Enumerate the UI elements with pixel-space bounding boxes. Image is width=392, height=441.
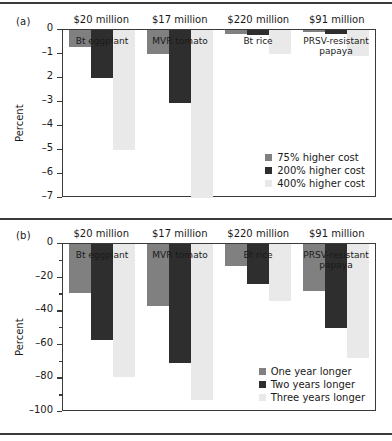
figure-container: (a) Percent $20 million$17 million$220 m… [0,0,392,441]
y-tick-label-2: –20 [35,270,53,281]
y-tick-label-4: –4 [42,118,53,129]
bar-0-2 [113,30,135,150]
legend-label-0: 75% higher cost [277,151,358,164]
panel-a-legend: 75% higher cost200% higher cost400% high… [265,151,365,190]
y-tick-label-1: –1 [42,46,53,57]
legend-item-2: Three years longer [259,391,365,404]
group-header-0: $20 million [62,228,141,242]
group-header-3: $91 million [298,14,377,28]
bar-group-1: MVR tomato [141,30,219,196]
bar-3-1 [325,30,347,34]
bar-0-2 [113,244,135,377]
legend-swatch-1 [259,381,266,388]
y-tick-label-8: –80 [35,370,53,381]
group-label-0: Bt eggplant [63,36,141,46]
bottom-rule [0,433,392,435]
bar-group-0: Bt eggplant [63,30,141,196]
group-label-2: Bt rice [219,36,297,46]
legend-item-1: Two years longer [259,378,365,391]
top-rule [0,2,392,4]
legend-label-1: Two years longer [271,378,355,391]
legend-item-0: One year longer [259,365,365,378]
group-header-0: $20 million [62,14,141,28]
group-label-0: Bt eggplant [63,250,141,260]
legend-swatch-2 [265,180,272,187]
group-header-1: $17 million [141,14,220,28]
y-tick-label-10: –100 [29,404,53,415]
group-header-3: $91 million [298,228,377,242]
y-tick-label-0: 0 [47,236,53,247]
group-header-2: $220 million [219,14,298,28]
panel-b: (b) Percent $20 million$17 million$220 m… [0,228,392,428]
legend-item-2: 400% higher cost [265,177,365,190]
bar-3-0 [303,30,325,32]
panel-a-plot-area: Bt eggplantMVR tomatoBt ricePRSV-resista… [62,29,376,197]
legend-swatch-1 [265,167,272,174]
group-header-1: $17 million [141,228,220,242]
panel-a: (a) Percent $20 million$17 million$220 m… [0,14,392,214]
middle-rule [0,218,392,220]
y-tick-label-2: 2 [47,70,53,81]
legend-item-1: 200% higher cost [265,164,365,177]
legend-swatch-0 [259,368,266,375]
panel-b-group-headers: $20 million$17 million$220 million$91 mi… [62,228,376,242]
y-tick-label-6: –6 [42,166,53,177]
legend-label-2: Three years longer [271,391,365,404]
group-label-1: MVR tomato [141,250,219,260]
panel-b-y-ticks: 0–20–40–60–80–100 [0,228,62,428]
bar-1-1 [169,244,191,363]
y-tick-label-7: –7 [42,190,53,201]
bar-group-1: MVR tomato [141,244,219,410]
y-tick-label-4: –40 [35,303,53,314]
panel-a-group-headers: $20 million$17 million$220 million$91 mi… [62,14,376,28]
panel-b-legend: One year longerTwo years longerThree yea… [259,365,365,404]
y-tick-mark-7 [57,197,62,198]
group-label-3: PRSV-resistant papaya [297,250,375,270]
legend-swatch-2 [259,394,266,401]
bar-group-0: Bt eggplant [63,244,141,410]
bar-2-0 [225,30,247,34]
legend-label-2: 400% higher cost [277,177,365,190]
y-tick-label-0: 0 [47,22,53,33]
group-header-2: $220 million [219,228,298,242]
panel-a-y-ticks: 0–12–3–4–5–6–7 [0,14,62,214]
legend-item-0: 75% higher cost [265,151,365,164]
y-tick-label-6: –60 [35,337,53,348]
group-label-2: Bt rice [219,250,297,260]
group-label-3: PRSV-resistant papaya [297,36,375,56]
bar-2-1 [247,30,269,35]
legend-swatch-0 [265,154,272,161]
y-tick-mark-10 [57,411,62,412]
legend-label-0: One year longer [271,365,352,378]
legend-label-1: 200% higher cost [277,164,365,177]
y-tick-label-5: –5 [42,142,53,153]
group-label-1: MVR tomato [141,36,219,46]
bar-1-2 [191,30,213,198]
panel-b-plot-area: Bt eggplantMVR tomatoBt ricePRSV-resista… [62,243,376,411]
y-tick-label-3: –3 [42,94,53,105]
bar-1-2 [191,244,213,400]
